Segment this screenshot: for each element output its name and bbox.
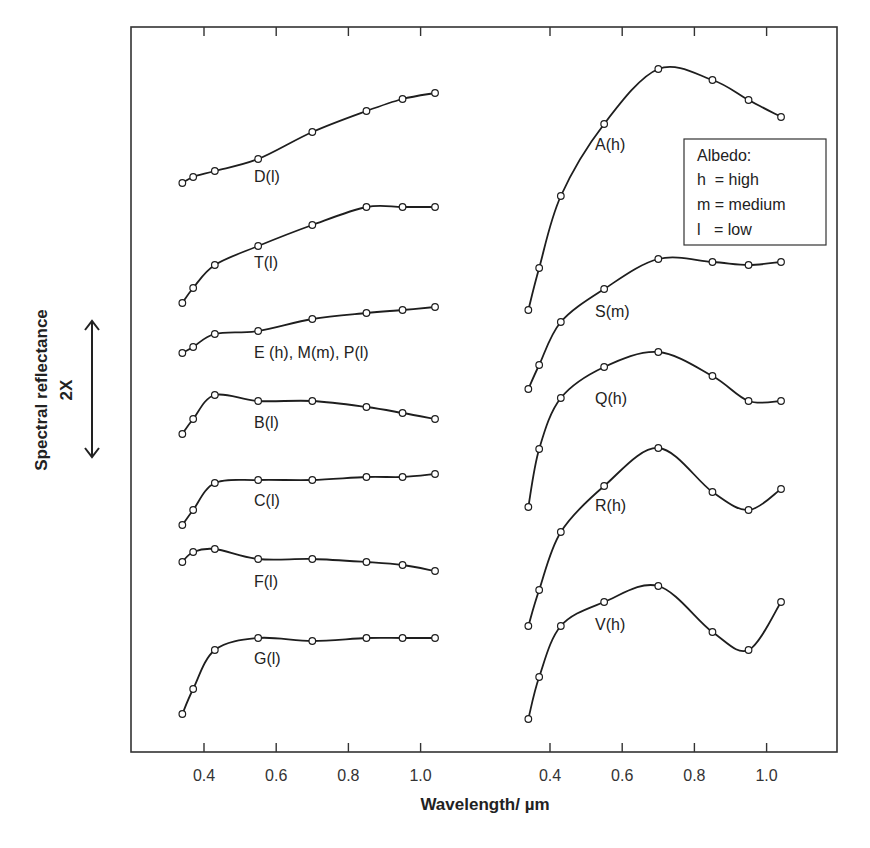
data-point-marker bbox=[399, 96, 406, 103]
curve-label: Q(h) bbox=[595, 390, 627, 407]
data-point-marker bbox=[601, 286, 608, 293]
data-point-marker bbox=[363, 108, 370, 115]
data-point-marker bbox=[558, 193, 565, 200]
data-point-marker bbox=[525, 716, 532, 723]
data-point-marker bbox=[745, 647, 752, 654]
data-point-marker bbox=[212, 546, 219, 553]
curve-r-h- bbox=[525, 445, 784, 630]
curve-label: E (h), M(m), P(l) bbox=[254, 344, 369, 361]
data-point-marker bbox=[212, 168, 219, 175]
curve-label: D(l) bbox=[254, 168, 280, 185]
data-point-marker bbox=[525, 307, 532, 314]
legend-entry-medium: m = medium bbox=[697, 196, 785, 213]
data-point-marker bbox=[255, 156, 262, 163]
data-point-marker bbox=[309, 638, 316, 645]
legend-entry-low: l = low bbox=[697, 221, 752, 238]
x-tick-label: 0.8 bbox=[683, 767, 705, 784]
y-axis-title-group: Spectral reflectance 2X bbox=[32, 309, 76, 471]
data-point-marker bbox=[190, 285, 197, 292]
data-point-marker bbox=[179, 431, 186, 438]
y-axis-title: Spectral reflectance bbox=[32, 309, 51, 471]
data-point-marker bbox=[363, 404, 370, 411]
data-point-marker bbox=[709, 629, 716, 636]
data-point-marker bbox=[745, 262, 752, 269]
data-point-marker bbox=[212, 647, 219, 654]
data-point-marker bbox=[536, 362, 543, 369]
data-point-marker bbox=[179, 559, 186, 566]
data-point-marker bbox=[255, 556, 262, 563]
data-point-marker bbox=[399, 410, 406, 417]
data-point-marker bbox=[525, 386, 532, 393]
data-point-marker bbox=[536, 265, 543, 272]
curve-q-h- bbox=[525, 349, 784, 511]
curve-label: F(l) bbox=[254, 573, 278, 590]
data-point-marker bbox=[399, 307, 406, 314]
data-point-marker bbox=[432, 204, 439, 211]
legend-entry-high: h = high bbox=[697, 171, 759, 188]
curve-label: A(h) bbox=[595, 136, 625, 153]
data-point-marker bbox=[709, 259, 716, 266]
data-point-marker bbox=[255, 328, 262, 335]
data-point-marker bbox=[179, 180, 186, 187]
data-point-marker bbox=[709, 489, 716, 496]
data-point-marker bbox=[399, 204, 406, 211]
data-point-marker bbox=[778, 398, 785, 405]
data-point-marker bbox=[363, 204, 370, 211]
data-point-marker bbox=[363, 559, 370, 566]
data-point-marker bbox=[399, 474, 406, 481]
data-point-marker bbox=[190, 549, 197, 556]
data-point-marker bbox=[536, 446, 543, 453]
data-point-marker bbox=[655, 583, 662, 590]
x-tick-label: 0.6 bbox=[611, 767, 633, 784]
data-point-marker bbox=[525, 623, 532, 630]
data-point-marker bbox=[536, 674, 543, 681]
data-point-marker bbox=[558, 623, 565, 630]
data-point-marker bbox=[179, 300, 186, 307]
data-point-marker bbox=[190, 344, 197, 351]
data-point-marker bbox=[601, 599, 608, 606]
data-point-marker bbox=[212, 262, 219, 269]
data-point-marker bbox=[432, 568, 439, 575]
x-tick-label: 0.8 bbox=[337, 767, 359, 784]
data-point-marker bbox=[778, 259, 785, 266]
curve-label: R(h) bbox=[595, 497, 626, 514]
data-point-marker bbox=[601, 483, 608, 490]
curve-f-l- bbox=[179, 546, 438, 575]
data-point-marker bbox=[432, 635, 439, 642]
data-point-marker bbox=[363, 310, 370, 317]
data-point-marker bbox=[745, 97, 752, 104]
double-arrow-icon bbox=[85, 321, 99, 457]
data-point-marker bbox=[309, 129, 316, 136]
data-point-marker bbox=[601, 364, 608, 371]
x-tick-label: 0.4 bbox=[193, 767, 215, 784]
data-point-marker bbox=[778, 599, 785, 606]
curve-label: C(l) bbox=[254, 492, 280, 509]
data-point-marker bbox=[558, 319, 565, 326]
data-point-marker bbox=[190, 174, 197, 181]
curve-b-l- bbox=[179, 392, 438, 438]
curve-d-l- bbox=[179, 90, 438, 187]
curve-s-m- bbox=[525, 256, 784, 393]
data-point-marker bbox=[778, 486, 785, 493]
data-point-marker bbox=[399, 562, 406, 569]
x-tick-label: 1.0 bbox=[755, 767, 777, 784]
y-scale-label: 2X bbox=[57, 379, 76, 400]
data-point-marker bbox=[432, 90, 439, 97]
data-point-marker bbox=[255, 477, 262, 484]
data-point-marker bbox=[709, 77, 716, 84]
x-axis-title: Wavelength/ µm bbox=[420, 795, 549, 814]
data-point-marker bbox=[745, 398, 752, 405]
data-point-marker bbox=[655, 66, 662, 73]
spectral-reflectance-chart: 0.40.60.81.00.40.60.81.0 D(l)T(l)E (h), … bbox=[0, 0, 870, 848]
curve-label: B(l) bbox=[254, 414, 279, 431]
data-point-marker bbox=[190, 507, 197, 514]
data-point-marker bbox=[309, 398, 316, 405]
curve-c-l- bbox=[179, 471, 438, 529]
curve-t-l- bbox=[179, 204, 438, 307]
data-point-marker bbox=[558, 395, 565, 402]
data-point-marker bbox=[190, 416, 197, 423]
data-point-marker bbox=[655, 445, 662, 452]
data-point-marker bbox=[179, 711, 186, 718]
data-point-marker bbox=[745, 507, 752, 514]
data-point-marker bbox=[536, 587, 543, 594]
